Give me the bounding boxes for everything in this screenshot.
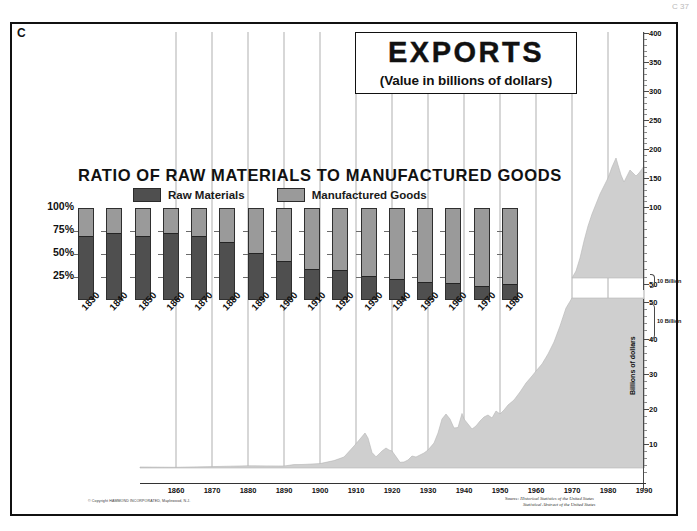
bar-tick-1960-75 [440, 231, 445, 232]
ratio-bar-1920 [332, 208, 348, 300]
ratio-chart-title: RATIO OF RAW MATERIALS TO MANUFACTURED G… [78, 166, 562, 185]
bar-tick-1870-25 [186, 277, 191, 278]
bar-tick-1900-75 [271, 231, 276, 232]
bar-manufactured-1870 [191, 208, 207, 300]
ratio-ytick-100: 100% [47, 200, 74, 212]
tl-year-1970: 1970 [564, 486, 581, 495]
tl-year-1940: 1940 [456, 486, 473, 495]
bar-tick-1980-75 [497, 231, 502, 232]
bar-tick-1970-50 [469, 254, 474, 255]
bar-tick-1880-75 [214, 231, 219, 232]
bar-tick-1910-25 [299, 277, 304, 278]
bar-tick-1930-75 [356, 231, 361, 232]
bar-raw-1870 [192, 236, 206, 299]
ratio-bar-1980 [502, 208, 518, 300]
bar-tick-1910-50 [299, 254, 304, 255]
bar-tick-1830-25 [73, 277, 78, 278]
break-note-lower: 10 Billion [657, 318, 681, 324]
bar-manufactured-1950 [417, 208, 433, 300]
ratio-bar-1870 [191, 208, 207, 300]
bar-tick-1880-50 [214, 254, 219, 255]
bar-tick-1890-25 [243, 277, 248, 278]
ratio-bar-1900 [276, 208, 292, 300]
bar-tick-1940-25 [384, 277, 389, 278]
axis-break-brace-upper [650, 274, 655, 288]
bar-tick-1940-75 [384, 231, 389, 232]
ratio-bar-1850 [135, 208, 151, 300]
bar-manufactured-1930 [361, 208, 377, 300]
ratio-bar-1830 [78, 208, 94, 300]
bar-tick-1830-50 [73, 254, 78, 255]
tl-year-1880: 1880 [240, 486, 257, 495]
ratio-ytick-25: 25% [53, 269, 74, 281]
legend-label-manufactured-goods: Manufactured Goods [312, 189, 427, 201]
bar-tick-1860-75 [158, 231, 163, 232]
break-note-upper: 10 Billion [657, 278, 681, 284]
bar-tick-1890-50 [243, 254, 248, 255]
bar-tick-1930-50 [356, 254, 361, 255]
tl-year-1990: 1990 [636, 486, 653, 495]
bar-tick-1860-50 [158, 254, 163, 255]
raxis-lower-10: 10 [649, 440, 657, 449]
y-axis-title: Billions of dollars [629, 336, 636, 395]
bar-tick-1900-25 [271, 277, 276, 278]
bar-manufactured-1830 [78, 208, 94, 300]
ratio-bar-1890 [248, 208, 264, 300]
raxis-upper-250: 250 [649, 116, 662, 125]
bar-tick-1900-50 [271, 254, 276, 255]
bar-raw-1850 [136, 236, 150, 299]
bar-tick-1980-50 [497, 254, 502, 255]
raxis-upper-150: 150 [649, 174, 662, 183]
bar-raw-1830 [79, 236, 93, 299]
source-line-1: Source: Historical Statistics of the Uni… [505, 496, 594, 501]
raxis-upper-400: 400 [649, 29, 662, 38]
bar-tick-1920-50 [327, 254, 332, 255]
bar-tick-1980-25 [497, 277, 502, 278]
bar-tick-1860-25 [158, 277, 163, 278]
tl-year-1900: 1900 [312, 486, 329, 495]
copyright-text: © Copyright HAMMOND INCORPORATED, Maplew… [88, 499, 190, 503]
ratio-bar-1930 [361, 208, 377, 300]
tl-year-1910: 1910 [348, 486, 365, 495]
page-subtitle: (Value in billions of dollars) [380, 73, 553, 88]
legend-swatch-manufactured-goods [277, 188, 305, 202]
bar-manufactured-1890 [248, 208, 264, 300]
bar-tick-1960-25 [440, 277, 445, 278]
bar-manufactured-1860 [163, 208, 179, 300]
tl-year-1950: 1950 [492, 486, 509, 495]
bar-tick-1890-75 [243, 231, 248, 232]
ratio-bar-1950 [417, 208, 433, 300]
bar-tick-1840-75 [101, 231, 106, 232]
ratio-legend: Raw Materials Manufactured Goods [133, 188, 459, 202]
bar-tick-1870-50 [186, 254, 191, 255]
tl-year-1920: 1920 [384, 486, 401, 495]
bar-tick-1880-25 [214, 277, 219, 278]
ratio-bar-1840 [106, 208, 122, 300]
raxis-upper-200: 200 [649, 145, 662, 154]
bar-tick-1950-75 [412, 231, 417, 232]
bar-tick-1850-25 [130, 277, 135, 278]
legend-swatch-raw-materials [133, 188, 161, 202]
axis-break-brace-lower [650, 303, 655, 340]
bar-raw-1840 [107, 233, 121, 299]
bar-tick-1920-25 [327, 277, 332, 278]
bar-tick-1930-25 [356, 277, 361, 278]
bar-manufactured-1910 [304, 208, 320, 300]
bar-manufactured-1980 [502, 208, 518, 300]
bar-tick-1830-75 [73, 231, 78, 232]
exports-title-box: EXPORTS (Value in billions of dollars) [355, 32, 577, 94]
bar-manufactured-1880 [219, 208, 235, 300]
bar-tick-1850-75 [130, 231, 135, 232]
bar-manufactured-1960 [445, 208, 461, 300]
bar-tick-1920-75 [327, 231, 332, 232]
bar-tick-1950-25 [412, 277, 417, 278]
ratio-bar-1940 [389, 208, 405, 300]
bar-raw-1860 [164, 233, 178, 299]
page-title: EXPORTS [388, 38, 544, 67]
raxis-lower-30: 30 [649, 370, 657, 379]
bar-tick-1970-75 [469, 231, 474, 232]
bar-tick-1970-25 [469, 277, 474, 278]
ratio-y-axis: 100% 75% 50% 25% [38, 205, 78, 300]
bar-manufactured-1840 [106, 208, 122, 300]
bar-tick-1840-25 [101, 277, 106, 278]
